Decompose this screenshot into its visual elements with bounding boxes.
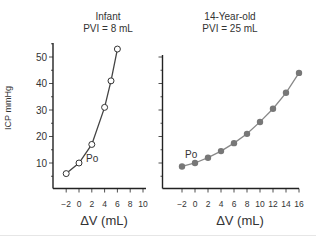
infant-data-point (63, 171, 69, 177)
teen-data-point (231, 140, 237, 146)
teen-x-axis-label: ΔV (mL) (216, 213, 264, 228)
infant-data-point (76, 160, 82, 166)
teen-data-point (296, 70, 302, 76)
infant-y-tick-label: 20 (36, 131, 48, 142)
infant-data-point (114, 46, 120, 52)
infant-data-point (89, 141, 95, 147)
teen-x-tick-label: 12 (268, 199, 278, 209)
infant-x-tick-label: 0 (77, 199, 82, 209)
infant-data-point (102, 104, 108, 110)
infant-x-tick-label: −2 (61, 199, 71, 209)
infant-x-tick-label: 8 (128, 199, 133, 209)
infant-x-axis-label: ΔV (mL) (80, 213, 128, 228)
teen-data-point (270, 105, 276, 111)
teen-data-point (257, 119, 263, 125)
teen-x-tick-label: 16 (294, 199, 304, 209)
teen-x-tick-label: 2 (206, 199, 211, 209)
teen-po-annotation: Po (185, 149, 198, 160)
teen-x-tick-label: 8 (245, 199, 250, 209)
teen-data-point (244, 131, 250, 137)
teen-x-tick-label: 0 (193, 199, 198, 209)
infant-x-tick-label: 10 (138, 199, 148, 209)
infant-data-point (108, 78, 114, 84)
y-axis-label: ICP mmHg (3, 86, 13, 130)
teen-data-line (182, 73, 299, 166)
infant-x-tick-label: 6 (115, 199, 120, 209)
infant-y-tick-label: 30 (36, 105, 48, 116)
teen-data-point (218, 148, 224, 154)
infant-y-tick-label: 50 (36, 52, 48, 63)
infant-x-tick-label: 4 (102, 199, 107, 209)
infant-y-tick-label: 40 (36, 78, 48, 89)
teen-x-tick-label: −2 (177, 199, 187, 209)
teen-x-tick-label: 14 (281, 199, 291, 209)
divider (0, 235, 316, 236)
infant-y-tick-label: 10 (36, 158, 48, 169)
infant-x-tick-label: 2 (89, 199, 94, 209)
teen-x-tick-label: 6 (232, 199, 237, 209)
teen-data-point (179, 163, 185, 169)
teen-x-tick-label: 10 (255, 199, 265, 209)
chart-canvas: 1020304050ICP mmHg−20246810ΔV (mL)Po−202… (0, 0, 316, 237)
teen-data-point (283, 90, 289, 96)
infant-po-annotation: Po (86, 153, 99, 164)
teen-data-point (205, 155, 211, 161)
teen-x-tick-label: 4 (219, 199, 224, 209)
teen-data-point (192, 160, 198, 166)
